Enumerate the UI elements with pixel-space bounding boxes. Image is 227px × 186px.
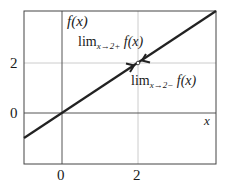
lim-function: f(x): [173, 73, 196, 88]
lim-text: lim: [78, 34, 97, 49]
y-tick-2: 2: [10, 56, 18, 71]
x-axis-label: x: [204, 114, 210, 127]
x-tick-0: 0: [57, 168, 65, 183]
y-axis-label: f(x): [67, 14, 88, 29]
lim-function: f(x): [120, 34, 143, 49]
lim-subscript: x→2−: [150, 80, 174, 90]
right-limit-label: limx→2+ f(x): [78, 35, 143, 51]
plot-canvas: [0, 0, 227, 186]
lim-text: lim: [131, 73, 150, 88]
lim-subscript: x→2+: [97, 41, 121, 51]
x-tick-2: 2: [133, 168, 141, 183]
left-limit-label: limx→2− f(x): [131, 74, 196, 90]
open-point: [136, 61, 140, 65]
y-tick-0: 0: [10, 106, 18, 121]
